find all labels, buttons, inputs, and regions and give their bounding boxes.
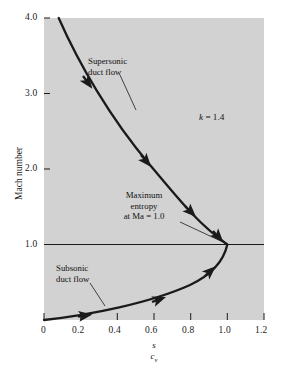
y-tick-label-1: 1.0: [25, 239, 37, 249]
supersonic-leader-line: [120, 75, 136, 110]
annotation-supersonic-line1: Supersonic: [88, 56, 127, 67]
annotation-supersonic-line2: duct flow: [88, 67, 127, 78]
annotation-maximum-entropy: Maximum entropy at Ma = 1.0: [105, 190, 183, 222]
x-tick-label-0p4: 0.4: [109, 325, 121, 335]
x-axis-title-numerator: s: [141, 341, 167, 351]
flow-arrow-markers-subsonic: [78, 271, 211, 317]
x-tick-label-0: 0: [41, 325, 46, 335]
annotation-maximum-entropy-line3: at Ma = 1.0: [105, 211, 183, 222]
annotation-k-value: k = 1.4: [199, 112, 224, 122]
y-tick-label-2: 2.0: [25, 163, 37, 173]
y-axis-title: Mach number: [14, 147, 24, 200]
annotation-subsonic: Subsonic duct flow: [56, 263, 89, 284]
annotation-maximum-entropy-line2: entropy: [105, 201, 183, 212]
x-axis-title: s cv: [141, 341, 167, 364]
y-tick-label-3: 3.0: [25, 88, 37, 98]
k-equals: =: [203, 112, 213, 122]
fanno-line-figure: 4.0 3.0 2.0 1.0 Mach number 0 0.2 0.4 0.…: [0, 0, 282, 367]
plot-svg: [0, 0, 282, 367]
annotation-subsonic-line1: Subsonic: [56, 263, 89, 274]
x-tick-label-0p6: 0.6: [145, 325, 157, 335]
x-tick-label-1p0: 1.0: [219, 325, 231, 335]
y-axis-ticks: [44, 18, 50, 245]
x-tick-label-1p2: 1.2: [255, 325, 267, 335]
x-tick-label-0p2: 0.2: [72, 325, 84, 335]
annotation-supersonic: Supersonic duct flow: [88, 56, 127, 77]
subsonic-leader-line: [90, 283, 105, 306]
x-tick-label-0p8: 0.8: [182, 325, 194, 335]
annotation-maximum-entropy-line1: Maximum: [105, 190, 183, 201]
x-axis-title-denominator: cv: [141, 351, 167, 364]
annotation-subsonic-line2: duct flow: [56, 274, 89, 285]
y-tick-label-4: 4.0: [25, 12, 37, 22]
k-number: 1.4: [213, 112, 224, 122]
